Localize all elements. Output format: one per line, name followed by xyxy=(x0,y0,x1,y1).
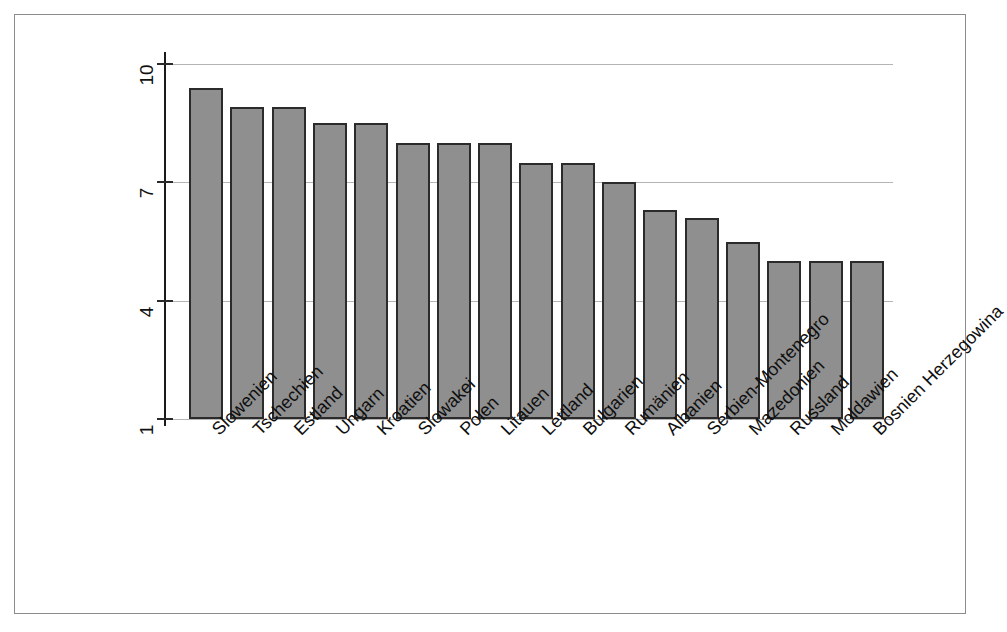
bar xyxy=(478,143,512,419)
y-tick-label: 10 xyxy=(136,64,158,85)
y-tick-label: 1 xyxy=(136,425,158,436)
bar xyxy=(396,143,430,419)
figure-frame: 10741 SlowenienTschechienEstlandUngarnKr… xyxy=(14,14,966,614)
bar xyxy=(354,123,388,419)
bar xyxy=(561,163,595,419)
bar xyxy=(519,163,553,419)
bar xyxy=(189,88,223,419)
y-tick-label: 7 xyxy=(136,188,158,199)
y-tick-label: 4 xyxy=(136,306,158,317)
x-axis-labels-group: SlowenienTschechienEstlandUngarnKroatien… xyxy=(165,425,965,615)
